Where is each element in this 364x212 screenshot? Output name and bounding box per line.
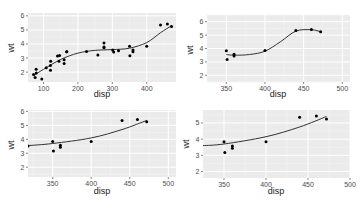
data-point — [49, 60, 52, 63]
y-tick-label: 2 — [196, 168, 200, 175]
y-axis-title: wt — [6, 43, 16, 53]
x-tick-label: 400 — [141, 85, 153, 92]
data-point — [298, 116, 301, 119]
data-point — [225, 49, 228, 52]
y-tick-label: 6 — [21, 108, 25, 115]
y-tick-label: 2 — [21, 164, 25, 171]
x-tick-label: 350 — [220, 85, 232, 92]
data-point — [65, 50, 68, 53]
data-point — [63, 62, 66, 65]
x-tick-label: 500 — [344, 181, 356, 188]
x-axis-title: disp — [268, 186, 285, 196]
data-point — [121, 119, 124, 122]
data-point — [319, 30, 322, 33]
data-point — [226, 58, 229, 61]
data-point — [90, 140, 93, 143]
data-point — [166, 22, 169, 25]
x-tick-label: 450 — [302, 181, 314, 188]
panel-bottom-left: 35040045050023456dispwt — [6, 108, 176, 196]
y-tick-label: 5 — [21, 122, 25, 129]
data-point — [131, 49, 134, 52]
data-point — [27, 145, 30, 148]
data-point — [315, 115, 318, 118]
data-point — [102, 41, 105, 44]
data-point — [45, 66, 48, 69]
data-point — [49, 69, 52, 72]
y-tick-label: 2 — [21, 69, 25, 76]
y-tick-label: 6 — [21, 12, 25, 19]
data-point — [34, 76, 37, 79]
data-point — [51, 140, 54, 143]
y-tick-label: 4 — [21, 40, 25, 47]
data-point — [59, 144, 62, 147]
data-point — [49, 64, 52, 67]
y-tick-label: 3 — [200, 58, 204, 65]
panel-bottom-right: 3504004505002345dispwt — [181, 110, 356, 196]
data-point — [102, 46, 105, 49]
y-tick-label: 4 — [200, 45, 204, 52]
y-axis-title: wt — [181, 139, 191, 149]
data-point — [117, 49, 120, 52]
x-axis-title: disp — [94, 89, 111, 99]
x-axis-title: disp — [270, 89, 287, 99]
x-tick-label: 500 — [336, 85, 348, 92]
data-point — [136, 118, 139, 121]
data-point — [145, 45, 148, 48]
y-tick-label: 3 — [21, 150, 25, 157]
data-point — [223, 140, 226, 143]
data-point — [85, 50, 88, 53]
faceted-scatter-chart: 10020030040023456dispwt35040045050023456… — [0, 0, 364, 212]
x-tick-label: 350 — [218, 181, 230, 188]
panel-top-left: 10020030040023456dispwt — [6, 12, 176, 99]
data-point — [57, 60, 60, 63]
data-point — [223, 151, 226, 154]
data-point — [265, 140, 268, 143]
x-tick-label: 500 — [162, 180, 174, 187]
y-tick-label: 2 — [200, 72, 204, 79]
data-point — [128, 54, 131, 57]
data-point — [112, 50, 115, 53]
data-point — [159, 24, 162, 27]
y-tick-label: 6 — [200, 18, 204, 25]
data-point — [52, 149, 55, 152]
y-tick-label: 3 — [196, 152, 200, 159]
data-point — [325, 117, 328, 120]
data-point — [310, 28, 313, 31]
x-axis-title: disp — [94, 186, 111, 196]
data-point — [170, 25, 173, 28]
y-axis-title: wt — [185, 45, 195, 55]
data-point — [63, 58, 66, 61]
x-tick-label: 450 — [124, 180, 136, 187]
data-point — [96, 54, 99, 57]
data-point — [128, 45, 131, 48]
data-point — [145, 120, 148, 123]
panel-top-right: 35040045050023456dispwt — [185, 15, 350, 99]
y-tick-label: 5 — [21, 26, 25, 33]
y-axis-title: wt — [6, 140, 16, 150]
data-point — [32, 73, 35, 76]
data-point — [40, 78, 43, 81]
y-tick-label: 3 — [21, 55, 25, 62]
data-point — [233, 53, 236, 56]
x-tick-label: 450 — [298, 85, 310, 92]
data-point — [231, 145, 234, 148]
x-tick-label: 200 — [72, 85, 84, 92]
data-point — [294, 29, 297, 32]
y-tick-label: 5 — [200, 32, 204, 39]
data-point — [263, 49, 266, 52]
y-tick-label: 5 — [196, 119, 200, 126]
y-tick-label: 4 — [21, 136, 25, 143]
data-point — [35, 68, 38, 71]
y-tick-label: 4 — [196, 136, 200, 143]
data-point — [58, 54, 61, 57]
x-tick-label: 350 — [47, 180, 59, 187]
data-point — [35, 72, 38, 75]
x-tick-label: 100 — [38, 85, 50, 92]
